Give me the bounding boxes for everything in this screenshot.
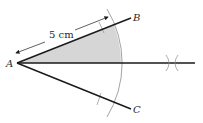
dimension-label: 5 cm — [49, 29, 74, 40]
line-ac — [17, 63, 131, 109]
dimension-arrow-left — [16, 42, 45, 53]
point-label-c: C — [133, 104, 141, 115]
point-label-a: A — [5, 58, 13, 69]
dimension-arrow-right — [75, 17, 108, 30]
point-label-b: B — [132, 12, 140, 23]
diagram-canvas: 5 cm A B C — [0, 0, 203, 123]
